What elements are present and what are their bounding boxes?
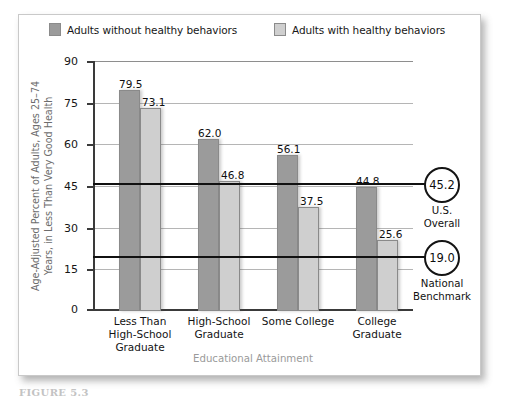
callout-us-overall-line-0: U.S.: [405, 205, 479, 218]
bar-value-without-1: 62.0: [198, 127, 221, 139]
y-tick-label-60: 60: [64, 138, 78, 151]
callout-national-benchmark-line-0: National: [405, 278, 479, 291]
y-axis-title-line-2: Years, in Less Than Very Good Health: [42, 60, 55, 312]
y-tick-label-75: 75: [64, 96, 78, 109]
callout-us-overall: 45.2 U.S. Overall: [405, 167, 479, 230]
x-axis-title: Educational Attainment: [93, 353, 413, 364]
reference-line-us-overall: [93, 183, 435, 185]
x-cat-3-line-1: Graduate: [322, 328, 432, 341]
bar-with-2[interactable]: 37.5: [298, 207, 319, 311]
legend-swatch-icon-dark: [49, 23, 61, 36]
x-category-label-3: College Graduate: [322, 315, 432, 341]
y-axis-line: [93, 61, 95, 311]
x-cat-1-line-1: Graduate: [164, 328, 274, 341]
bar-with-0[interactable]: 73.1: [140, 108, 161, 311]
bar-without-2[interactable]: 56.1: [277, 155, 298, 311]
legend-item-adults-without-healthy-behaviors[interactable]: Adults without healthy behaviors: [49, 23, 237, 36]
bar-value-with-3: 25.6: [379, 228, 402, 240]
bar-without-0[interactable]: 79.5: [119, 90, 140, 311]
legend-label-with: Adults with healthy behaviors: [292, 24, 445, 36]
callout-us-overall-line-1: Overall: [405, 218, 479, 231]
legend-item-adults-with-healthy-behaviors[interactable]: Adults with healthy behaviors: [274, 23, 445, 36]
bar-value-without-2: 56.1: [277, 143, 300, 155]
y-tick-label-45: 45: [64, 180, 78, 193]
y-tick-label-0: 0: [71, 303, 78, 316]
gridline-75: [93, 103, 413, 104]
chart-legend: Adults without healthy behaviors Adults …: [19, 23, 482, 47]
bar-value-with-2: 37.5: [300, 195, 323, 207]
callout-badge-national-benchmark: 19.0: [424, 240, 460, 276]
y-axis-title-line-1: Age-Adjusted Percent of Adults, Ages 25–…: [29, 60, 42, 312]
bar-with-3[interactable]: 25.6: [377, 240, 398, 311]
bar-without-1[interactable]: 62.0: [198, 139, 219, 311]
bar-with-1[interactable]: 46.8: [219, 181, 240, 311]
y-axis-title: Age-Adjusted Percent of Adults, Ages 25–…: [25, 57, 59, 315]
legend-swatch-icon-light: [274, 23, 286, 36]
gridline-90: [93, 61, 413, 62]
callout-national-benchmark: 19.0 National Benchmark: [405, 240, 479, 303]
callout-national-benchmark-line-1: Benchmark: [405, 291, 479, 304]
y-tick-label-90: 90: [64, 55, 78, 68]
plot-area: 90 75 60 45 30 15 0 79.5: [93, 61, 413, 311]
y-tick-label-15: 15: [64, 263, 78, 276]
reference-line-national-benchmark: [93, 256, 435, 258]
x-cat-3-line-0: College: [322, 315, 432, 328]
bar-without-3[interactable]: 44.8: [356, 187, 377, 311]
y-tick-label-30: 30: [64, 221, 78, 234]
callout-badge-us-overall: 45.2: [424, 167, 460, 203]
figure-panel: Adults without healthy behaviors Adults …: [18, 14, 481, 376]
legend-label-without: Adults without healthy behaviors: [67, 24, 237, 36]
bar-value-with-0: 73.1: [142, 96, 165, 108]
figure-caption: FIGURE 5.3: [19, 387, 89, 398]
bar-value-with-1: 46.8: [221, 169, 244, 181]
bar-value-without-0: 79.5: [119, 78, 142, 90]
